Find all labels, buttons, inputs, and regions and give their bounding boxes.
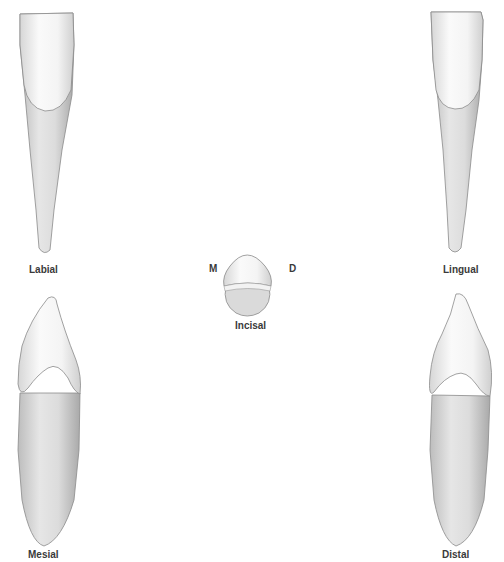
tooth-distal-view: [430, 294, 492, 546]
label-labial: Labial: [29, 264, 58, 275]
tooth-lingual-view: [431, 12, 483, 252]
label-lingual: Lingual: [443, 264, 479, 275]
label-mesial-marker: M: [209, 263, 217, 274]
label-distal-marker: D: [289, 263, 296, 274]
label-distal: Distal: [442, 549, 469, 560]
label-mesial: Mesial: [28, 549, 59, 560]
tooth-labial-view: [20, 13, 74, 253]
tooth-incisal-view: [224, 255, 272, 316]
label-incisal: Incisal: [235, 320, 266, 331]
tooth-illustrations: [0, 0, 504, 562]
tooth-mesial-view: [18, 297, 81, 546]
